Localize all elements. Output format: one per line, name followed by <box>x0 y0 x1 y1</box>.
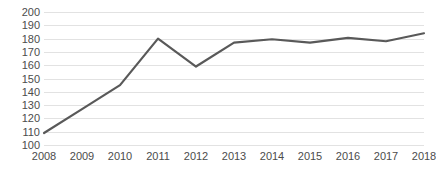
y-axis-tick-label: 120 <box>0 113 40 124</box>
y-axis-tick-label: 180 <box>0 33 40 44</box>
gridline <box>44 145 424 146</box>
x-axis-tick-label: 2017 <box>374 150 398 162</box>
x-axis-tick-label: 2012 <box>184 150 208 162</box>
x-axis-tick-label: 2011 <box>146 150 170 162</box>
y-axis-tick-labels: 100110120130140150160170180190200 <box>0 12 40 145</box>
x-axis-tick-label: 2018 <box>412 150 436 162</box>
series-line-group <box>44 12 424 145</box>
series-line <box>44 33 424 133</box>
y-axis-tick-label: 140 <box>0 86 40 97</box>
y-axis-tick-label: 150 <box>0 73 40 84</box>
y-axis-tick-label: 160 <box>0 60 40 71</box>
y-axis-tick-label: 200 <box>0 7 40 18</box>
y-axis-tick-label: 130 <box>0 100 40 111</box>
x-axis-tick-label: 2015 <box>298 150 322 162</box>
x-axis-tick-label: 2016 <box>336 150 360 162</box>
x-axis-tick-labels: 2008200920102011201220132014201520162017… <box>44 150 424 166</box>
y-axis-tick-label: 110 <box>0 126 40 137</box>
x-axis-tick-label: 2010 <box>108 150 132 162</box>
x-axis-tick-label: 2009 <box>70 150 94 162</box>
x-axis-tick-label: 2014 <box>260 150 284 162</box>
y-axis-tick-label: 190 <box>0 20 40 31</box>
x-axis-tick-label: 2013 <box>222 150 246 162</box>
y-axis-tick-label: 170 <box>0 46 40 57</box>
x-axis-tick-label: 2008 <box>32 150 56 162</box>
y-axis-tick-label: 100 <box>0 140 40 151</box>
plot-area <box>44 12 424 145</box>
